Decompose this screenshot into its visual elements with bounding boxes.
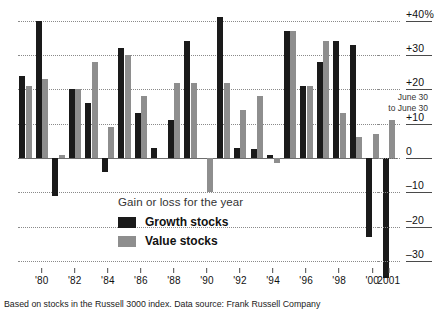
bar-growth-1996 xyxy=(300,86,306,158)
x-tick-label: '80 xyxy=(35,275,49,286)
bar-growth-1994 xyxy=(267,155,273,158)
y-tick-rule xyxy=(406,227,432,228)
x-tick-label: '96 xyxy=(299,275,313,286)
y-tick-dots xyxy=(378,55,400,56)
x-tick-80: '80 xyxy=(35,268,49,286)
bar-group xyxy=(85,14,102,278)
x-tick-84: '84 xyxy=(101,268,115,286)
bar-group xyxy=(383,14,400,278)
y-tick-dots xyxy=(378,227,400,228)
x-tick-88: '88 xyxy=(167,268,181,286)
x-tick-label: '88 xyxy=(167,275,181,286)
annotation-line-1: June 30 xyxy=(368,92,428,103)
y-tick-dots xyxy=(378,158,400,159)
x-tick-mark xyxy=(41,268,42,273)
stock-returns-chart: +40%+30+20+100–10–20–30 '80'82'84'86'88'… xyxy=(0,0,444,313)
bar-value-1993 xyxy=(257,96,263,158)
bar-growth-1981 xyxy=(52,158,58,196)
x-tick-82: '82 xyxy=(68,268,82,286)
y-tick-label: –10 xyxy=(406,179,424,191)
bar-growth-1997 xyxy=(317,62,323,158)
bar-group xyxy=(251,14,268,278)
bar-value-1979 xyxy=(26,86,32,158)
bar-growth-1988 xyxy=(168,120,174,158)
x-tick-mark xyxy=(339,268,340,273)
bar-growth-1999 xyxy=(350,45,356,158)
bar-value-1989 xyxy=(191,83,197,158)
bar-growth-1992 xyxy=(234,148,240,158)
y-tick-rule xyxy=(406,261,432,262)
y-tick-dots xyxy=(378,192,400,193)
x-axis: '80'82'84'86'88'90'92'94'96'98'002001 xyxy=(18,268,398,298)
bar-group xyxy=(300,14,317,278)
bar-value-1981 xyxy=(59,155,65,158)
y-tick-rule xyxy=(406,55,432,56)
legend-item-value: Value stocks xyxy=(118,234,243,248)
x-tick-96: '96 xyxy=(299,268,313,286)
x-tick-mark xyxy=(173,268,174,273)
bar-growth-1993 xyxy=(251,149,257,158)
bar-value-1997 xyxy=(323,41,329,158)
annotation-line-2: to June 30 xyxy=(368,103,428,114)
x-tick-label: '90 xyxy=(200,275,214,286)
legend-swatch-growth xyxy=(118,217,136,228)
bar-growth-1991 xyxy=(217,17,223,158)
bar-value-1980 xyxy=(42,79,48,158)
y-tick-rule xyxy=(406,192,432,193)
x-tick-label: '86 xyxy=(134,275,148,286)
x-tick-mark xyxy=(273,268,274,273)
bar-value-1994 xyxy=(274,158,280,163)
bar-value-1999 xyxy=(356,137,362,158)
x-tick-mark xyxy=(107,268,108,273)
source-caption: Based on stocks in the Russell 3000 inde… xyxy=(4,299,320,309)
y-tick-rule xyxy=(406,89,432,90)
bar-group xyxy=(366,14,383,278)
x-tick-94: '94 xyxy=(266,268,280,286)
bar-group xyxy=(52,14,69,278)
bar-value-1983 xyxy=(92,62,98,158)
legend-label-value: Value stocks xyxy=(145,234,218,248)
y-tick-dots xyxy=(378,89,400,90)
x-tick-mark xyxy=(140,268,141,273)
bar-growth-1980 xyxy=(36,21,42,158)
legend-title: Gain or loss for the year xyxy=(118,196,243,208)
y-tick-label: 0 xyxy=(406,145,412,157)
x-tick-label: '94 xyxy=(266,275,280,286)
bar-group xyxy=(284,14,301,278)
bar-group xyxy=(36,14,53,278)
x-tick-label: 2001 xyxy=(377,275,400,286)
bar-group xyxy=(19,14,36,278)
bar-growth-1985 xyxy=(118,48,124,158)
bar-value-1992 xyxy=(240,110,246,158)
bar-group xyxy=(333,14,350,278)
bar-growth-1982 xyxy=(69,89,75,158)
y-tick-rule xyxy=(406,124,432,125)
bar-growth-1995 xyxy=(284,31,290,158)
x-tick-label: '92 xyxy=(233,275,247,286)
y-tick-label: –30 xyxy=(406,248,424,260)
bar-growth-1984 xyxy=(102,158,108,172)
bar-growth-2000 xyxy=(366,158,372,237)
bar-value-1984 xyxy=(108,127,114,158)
bar-group xyxy=(350,14,367,278)
bar-value-1990 xyxy=(207,158,213,192)
bar-group xyxy=(267,14,284,278)
y-tick-rule xyxy=(406,21,432,22)
bar-value-1986 xyxy=(141,96,147,158)
x-tick-2001: 2001 xyxy=(377,268,400,286)
x-tick-mark xyxy=(206,268,207,273)
bar-value-1996 xyxy=(307,86,313,158)
bar-growth-1989 xyxy=(184,41,190,158)
bar-growth-1998 xyxy=(333,41,339,158)
bar-value-1982 xyxy=(75,89,81,158)
bar-growth-1986 xyxy=(135,113,141,158)
legend-label-growth: Growth stocks xyxy=(145,215,228,229)
y-tick-label: +20 xyxy=(406,76,424,88)
x-tick-mark xyxy=(240,268,241,273)
x-tick-label: '98 xyxy=(332,275,346,286)
x-tick-mark xyxy=(388,268,389,273)
y-tick-dots xyxy=(378,261,400,262)
x-tick-mark xyxy=(306,268,307,273)
june-to-june-annotation: June 30 to June 30 xyxy=(368,92,428,114)
x-tick-86: '86 xyxy=(134,268,148,286)
